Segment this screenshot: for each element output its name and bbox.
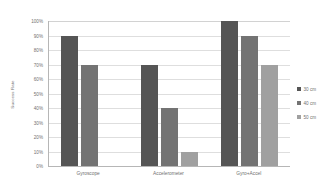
- legend-item: 30 cm: [297, 84, 333, 94]
- bar: [161, 108, 178, 166]
- legend-swatch-icon: [297, 115, 301, 119]
- bar: [141, 65, 158, 167]
- y-axis-tick-label: 100%: [3, 19, 43, 24]
- bar: [221, 21, 238, 166]
- y-axis-tick-label: 30%: [3, 120, 43, 125]
- bar: [261, 65, 278, 167]
- y-axis-tick-label: 70%: [3, 62, 43, 67]
- chart-figure: Success Rate 100%90%80%70%60%50%40%30%20…: [0, 0, 334, 188]
- legend-item-label: 30 cm: [304, 87, 317, 92]
- bar: [61, 36, 78, 167]
- x-axis-tick-label: Gyroscope: [77, 171, 100, 176]
- bar-group: [221, 21, 278, 166]
- bar: [181, 152, 198, 167]
- x-axis-tick-label: Accelerometer: [153, 171, 184, 176]
- y-axis-tick-label: 20%: [3, 135, 43, 140]
- y-axis-tick-label: 80%: [3, 48, 43, 53]
- bar: [81, 65, 98, 167]
- bar: [241, 36, 258, 167]
- y-axis-tick-label: 10%: [3, 149, 43, 154]
- legend-item: 50 cm: [297, 112, 333, 122]
- plot-area: [48, 21, 290, 167]
- legend-item: 40 cm: [297, 98, 333, 108]
- y-axis-tick-label: 40%: [3, 106, 43, 111]
- legend-item-label: 50 cm: [304, 115, 317, 120]
- y-axis-tick-label: 0%: [3, 164, 43, 169]
- y-axis-tick-label: 90%: [3, 33, 43, 38]
- legend-item-label: 40 cm: [304, 101, 317, 106]
- legend-swatch-icon: [297, 101, 301, 105]
- y-axis-tick-label: 60%: [3, 77, 43, 82]
- legend-swatch-icon: [297, 87, 301, 91]
- legend: 30 cm40 cm50 cm: [297, 84, 333, 126]
- x-axis-tick-label: Gyro+Accel: [236, 171, 261, 176]
- bar-group: [61, 21, 118, 166]
- y-axis-tick-label: 50%: [3, 91, 43, 96]
- bar-group: [141, 21, 198, 166]
